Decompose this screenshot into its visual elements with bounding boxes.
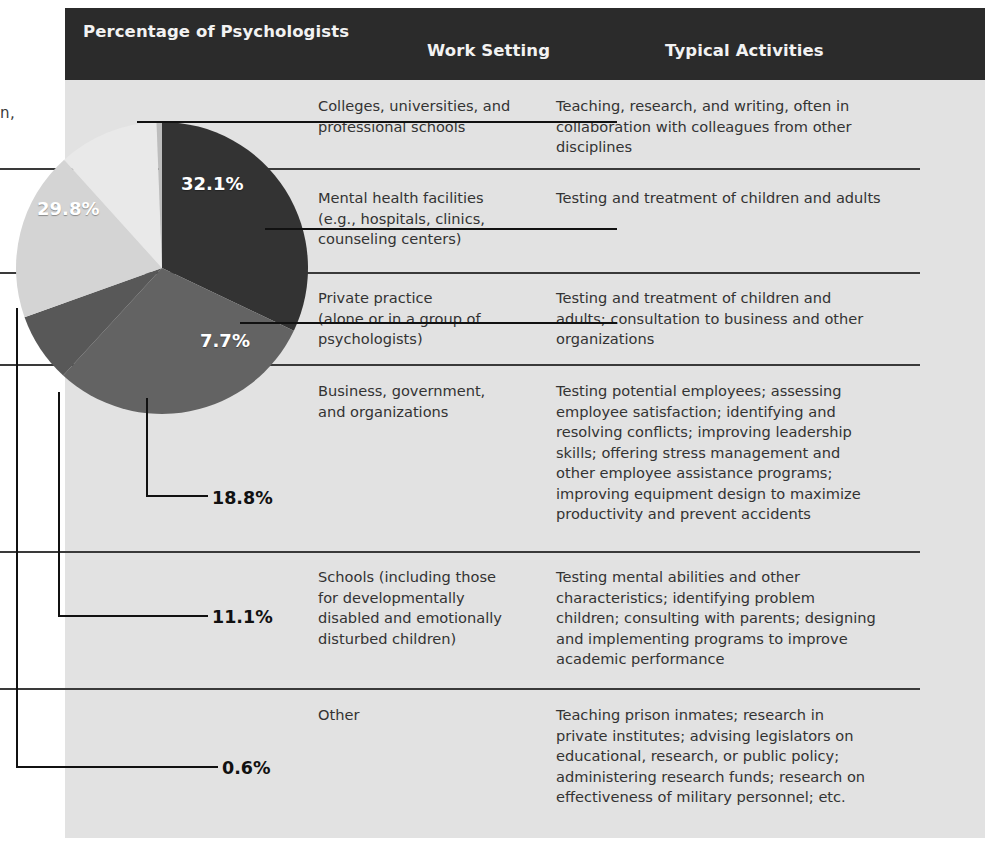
pie-slices bbox=[16, 122, 308, 414]
pie-chart bbox=[0, 85, 330, 475]
leader-line-11-1-vertical bbox=[58, 392, 60, 616]
cell-typical-activities: Testing potential employees; assessing e… bbox=[556, 381, 916, 525]
pie-label-7-7: 7.7% bbox=[200, 330, 250, 351]
pie-label-32-1: 32.1% bbox=[181, 173, 243, 194]
pie-chart-svg bbox=[0, 85, 330, 475]
cell-typical-activities: Testing and treatment of children and ad… bbox=[556, 188, 916, 209]
leader-line-18-8-vertical bbox=[146, 398, 148, 496]
column-header-work-setting: Work Setting bbox=[427, 41, 550, 60]
cell-work-setting: Colleges, universities, and professional… bbox=[318, 96, 548, 137]
leader-line-0-6-vertical bbox=[16, 308, 18, 768]
cell-work-setting: Private practice (alone or in a group of… bbox=[318, 288, 548, 350]
row-divider bbox=[0, 688, 920, 690]
row-divider bbox=[0, 551, 920, 553]
pie-label-29-8: 29.8% bbox=[37, 198, 99, 219]
pie-label-18-8: 18.8% bbox=[212, 488, 273, 508]
leader-line-18-8-horizontal bbox=[146, 495, 208, 497]
pie-label-0-6: 0.6% bbox=[222, 758, 271, 778]
cell-work-setting: Schools (including those for development… bbox=[318, 567, 548, 649]
cell-typical-activities: Teaching prison inmates; research in pri… bbox=[556, 705, 916, 808]
pie-label-11-1: 11.1% bbox=[212, 607, 273, 627]
leader-line-11-1-horizontal bbox=[58, 615, 208, 617]
figure-root: n, Percentage of Psychologists Work Sett… bbox=[0, 0, 985, 850]
cell-work-setting: Other bbox=[318, 705, 548, 726]
column-header-typical-activities: Typical Activities bbox=[665, 41, 824, 60]
leader-line-29-8 bbox=[265, 228, 617, 230]
leader-line-7-7 bbox=[240, 322, 617, 324]
cell-typical-activities: Teaching, research, and writing, often i… bbox=[556, 96, 916, 158]
cell-typical-activities: Testing and treatment of children and ad… bbox=[556, 288, 916, 350]
cell-typical-activities: Testing mental abilities and other chara… bbox=[556, 567, 916, 670]
column-header-percentage: Percentage of Psychologists bbox=[83, 22, 349, 41]
leader-line-0-6-horizontal bbox=[16, 766, 218, 768]
table-header-bar: Percentage of Psychologists Work Setting… bbox=[65, 8, 985, 80]
leader-line-32-1 bbox=[137, 121, 617, 123]
cell-work-setting: Business, government, and organizations bbox=[318, 381, 548, 422]
cell-work-setting: Mental health facilities (e.g., hospital… bbox=[318, 188, 548, 250]
